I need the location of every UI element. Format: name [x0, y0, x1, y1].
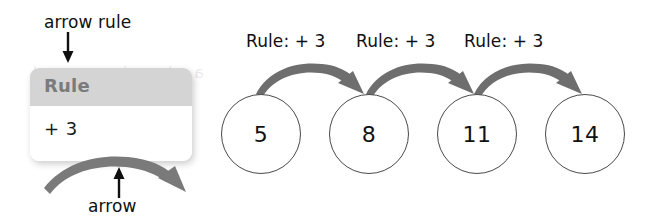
chain-arrow-icon-2 — [362, 58, 482, 100]
callout-label-arrow: arrow — [88, 196, 137, 216]
chain-arrow-label-1: Rule: + 3 — [246, 31, 326, 51]
chain-arrow-label-3: Rule: + 3 — [464, 31, 544, 51]
rule-card-value: + 3 — [44, 118, 78, 139]
chain-circle-2: 8 — [329, 94, 409, 174]
up-pointer-icon — [104, 166, 134, 200]
chain-circle-1: 5 — [221, 94, 301, 174]
rule-card-header: Rule — [30, 68, 192, 106]
chain-circle-value-1: 5 — [222, 95, 300, 173]
chain-circle-3: 11 — [437, 94, 517, 174]
diagram-canvas: arrow rule a rule and a reversed Rule + … — [0, 0, 650, 224]
chain-circle-value-3: 11 — [438, 95, 516, 173]
chain-circle-value-2: 8 — [330, 95, 408, 173]
chain-circle-value-4: 14 — [546, 95, 624, 173]
chain-arrow-icon-3 — [470, 58, 590, 100]
callout-label-arrow-rule: arrow rule — [44, 12, 131, 32]
chain-arrow-icon-1 — [252, 58, 372, 100]
down-pointer-icon — [52, 30, 84, 66]
chain-circle-4: 14 — [545, 94, 625, 174]
chain-arrow-label-2: Rule: + 3 — [356, 31, 436, 51]
rule-card-title: Rule — [44, 75, 90, 96]
